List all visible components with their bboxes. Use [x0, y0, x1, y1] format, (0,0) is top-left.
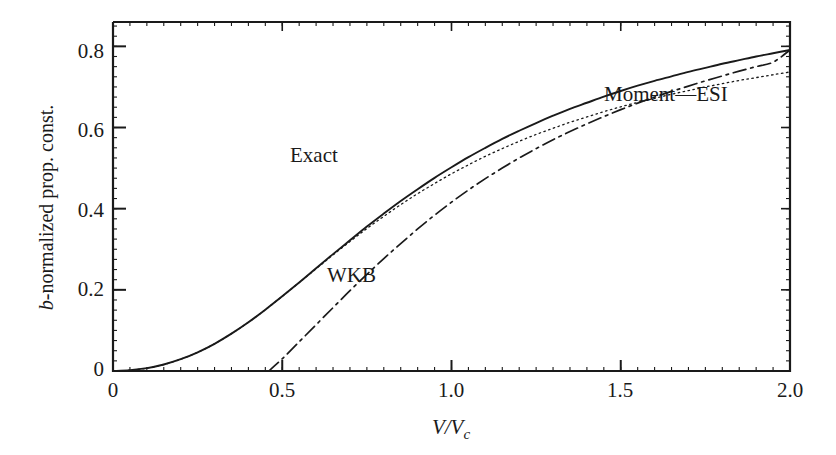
y-axis-title-rest: -normalized prop. const. [35, 105, 57, 301]
curve-moment-esi [113, 72, 790, 371]
x-tick-label-1p0: 1.0 [426, 380, 476, 401]
curve-label-wkb: WKB [327, 265, 376, 286]
x-tick-label-0: 0 [88, 380, 138, 401]
axis-spines [113, 22, 790, 371]
y-tick-label-0p4: 0.4 [56, 200, 104, 221]
x-tick-label-0p5: 0.5 [257, 380, 307, 401]
axis-ticks [113, 22, 790, 371]
y-axis-title: b-normalized prop. const. [35, 58, 58, 358]
x-axis-title-main: V/V [432, 415, 464, 439]
y-axis-title-italic-prefix: b [35, 300, 57, 310]
curve-label-exact: Exact [290, 145, 338, 166]
axes-frame [113, 22, 790, 371]
figure-container: 0.8 0.6 0.4 0.2 0 0 0.5 1.0 1.5 2.0 b-no… [0, 0, 836, 455]
curve-label-moment-esi: Moment—ESI [604, 84, 728, 105]
y-tick-label-0p8: 0.8 [56, 41, 104, 62]
x-axis-title: V/Vc [361, 415, 541, 443]
y-tick-label-0: 0 [56, 359, 104, 380]
x-axis-title-subscript: c [463, 426, 470, 442]
y-tick-label-0p2: 0.2 [56, 279, 104, 300]
y-tick-label-0p6: 0.6 [56, 120, 104, 141]
x-tick-label-1p5: 1.5 [595, 380, 645, 401]
x-tick-label-2p0: 2.0 [765, 380, 815, 401]
